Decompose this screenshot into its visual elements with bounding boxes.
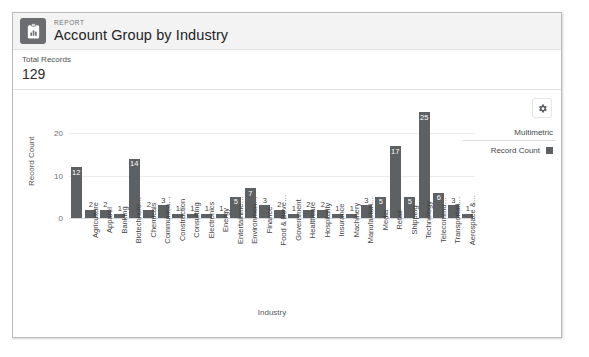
bar-value-label: 17 [391,148,399,156]
x-axis-tick-slot: Transportati… [446,220,461,298]
bar-value-label: 12 [72,169,80,177]
gear-icon [537,103,548,114]
plot-wrapper: Record Count 010201222114231111573212211… [13,90,483,337]
chart-settings-button[interactable] [532,98,552,118]
x-axis-tick-slot: Consulting [185,220,200,298]
bar-value-label: 14 [130,160,138,168]
x-axis-tick-label: Aerospace &… [468,195,477,245]
total-records-label: Total Records [22,55,561,65]
bar-value-label: 5 [379,198,383,206]
screenshot-root: REPORT Account Group by Industry Total R… [0,0,589,357]
x-axis-tick-slot: Entertainme… [229,220,244,298]
x-axis-tick-slot: Hospitality [316,220,331,298]
bar-slot: 5 [403,108,418,218]
x-axis-tick-slot: Retail [388,220,403,298]
x-axis-tick-slot: Electronics [200,220,215,298]
x-axis-tick-slot: Apparel [98,220,113,298]
x-axis-title: Industry [69,308,475,317]
legend-color-swatch [546,147,553,154]
bar-slot: 1 [113,108,128,218]
y-axis-tick: 10 [37,171,63,180]
bar-slot: 3 [258,108,273,218]
bar[interactable] [390,146,401,218]
bar-slot: 5 [374,108,389,218]
x-axis-tick-slot: Telecommu… [432,220,447,298]
report-clipboard-chart-icon [20,18,46,44]
bar-value-label: 3 [263,197,267,205]
bar-slot: 17 [388,108,403,218]
x-axis-tick-slot: Insurance [330,220,345,298]
x-axis-tick-slot [69,220,84,298]
x-axis-tick-slot: Communica… [156,220,171,298]
bar-value-label: 25 [420,114,428,122]
x-axis-tick-slot: Banking [113,220,128,298]
x-axis-tick-slot: Machinery [345,220,360,298]
header-text: REPORT Account Group by Industry [54,20,228,43]
total-records-value: 129 [22,65,561,84]
y-axis-title: Record Count [27,137,36,186]
x-axis-tick-slot: Environmen… [243,220,258,298]
x-axis-tick-slot: Media [374,220,389,298]
x-axis-labels: AgricultureApparelBankingBiotechnolo…Che… [69,220,475,298]
total-records-band: Total Records 129 [13,50,561,90]
x-axis-tick-slot: Aerospace &… [461,220,476,298]
x-axis-tick-slot: Shipping [403,220,418,298]
bar-slot: 1 [214,108,229,218]
x-axis-tick-slot: Energy [214,220,229,298]
x-axis-tick-slot: Chemicals [142,220,157,298]
x-axis-tick-slot: Technology [417,220,432,298]
x-axis-tick-slot: Biotechnolo… [127,220,142,298]
x-axis-tick-slot: Finance [258,220,273,298]
x-axis-tick-slot: Government [287,220,302,298]
x-axis-tick-slot: Agriculture [84,220,99,298]
report-header: REPORT Account Group by Industry [13,13,561,50]
bar-slot: 2 [98,108,113,218]
bar-series: 12221142311115732122113517525631 [69,108,475,218]
x-axis-tick-slot: Manufacturi… [359,220,374,298]
page-title: Account Group by Industry [54,28,228,43]
x-axis-tick-slot: Healthcare [301,220,316,298]
report-eyebrow: REPORT [54,20,228,27]
y-axis-tick: 20 [37,129,63,138]
bar-slot: 12 [69,108,84,218]
legend-item-label: Record Count [491,146,540,155]
report-card: REPORT Account Group by Industry Total R… [12,12,562,338]
chart-region: Multimetric Record Count Record Count 01… [13,90,561,337]
x-axis-tick-slot: Food & Beve… [272,220,287,298]
y-axis-tick: 0 [37,214,63,223]
x-axis-tick-slot: Construction [171,220,186,298]
plot-area: 0102012221142311115732122113517525631 [59,108,475,218]
bar-slot: 1 [330,108,345,218]
